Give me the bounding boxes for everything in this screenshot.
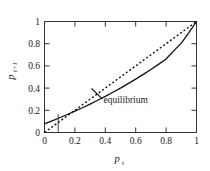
y-tick-label-0-2: 0.2 bbox=[28, 106, 40, 116]
x-tick-label-0-6: 0.6 bbox=[130, 136, 142, 146]
y-tick-label-0: 0 bbox=[35, 128, 40, 138]
y-axis-title-subscript: t+1 bbox=[11, 62, 18, 72]
y-tick-label-0-6: 0.6 bbox=[28, 61, 40, 71]
y-tick-label-0-4: 0.4 bbox=[28, 84, 40, 94]
y-axis-title: p t+1 bbox=[5, 62, 18, 81]
x-tick-labels: 0 0.2 0.4 0.6 0.8 1 bbox=[42, 136, 199, 146]
y-tick-label-0-8: 0.8 bbox=[28, 39, 40, 49]
recursion-curve-solid bbox=[45, 22, 197, 124]
chart-figure: 0 0.2 0.4 0.6 0.8 1 0 0.2 0.4 0.6 0.8 1 … bbox=[0, 0, 210, 171]
y-axis-title-base: p bbox=[5, 74, 16, 80]
x-axis-title-subscript: t bbox=[122, 159, 125, 166]
x-axis-title: p t bbox=[113, 153, 125, 166]
x-tick-label-0-4: 0.4 bbox=[99, 136, 111, 146]
equilibrium-annotation-label: equilibrium bbox=[104, 95, 149, 105]
recursion-plot: 0 0.2 0.4 0.6 0.8 1 0 0.2 0.4 0.6 0.8 1 … bbox=[0, 0, 210, 171]
x-tick-label-0-2: 0.2 bbox=[69, 136, 81, 146]
y-tick-labels: 0 0.2 0.4 0.6 0.8 1 bbox=[28, 17, 40, 138]
x-tick-label-1: 1 bbox=[194, 136, 199, 146]
y-tick-label-1: 1 bbox=[35, 17, 40, 27]
x-tick-label-0-8: 0.8 bbox=[160, 136, 172, 146]
x-tick-label-0: 0 bbox=[42, 136, 47, 146]
x-axis-title-base: p bbox=[113, 153, 119, 164]
identity-line-dashed bbox=[45, 22, 197, 133]
